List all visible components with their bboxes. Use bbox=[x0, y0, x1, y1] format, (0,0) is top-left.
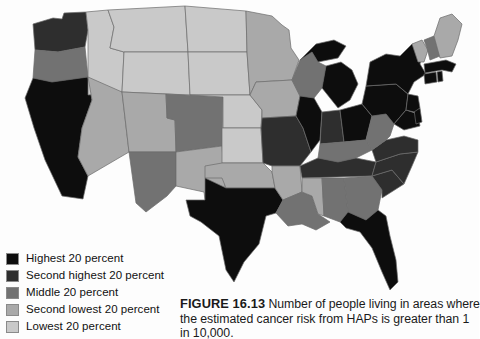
state-OR[interactable] bbox=[33, 47, 88, 82]
legend-item-second-lowest[interactable]: Second lowest 20 percent bbox=[6, 301, 206, 318]
legend-label-highest: Highest 20 percent bbox=[26, 252, 123, 265]
state-AL[interactable] bbox=[322, 178, 348, 222]
state-SD[interactable] bbox=[188, 52, 250, 95]
legend-item-second-highest[interactable]: Second highest 20 percent bbox=[6, 267, 206, 284]
state-NJ[interactable] bbox=[406, 94, 420, 112]
state-FL[interactable] bbox=[340, 210, 398, 290]
legend-swatch-second-highest bbox=[6, 270, 19, 282]
figure-caption: FIGURE 16.13 Number of people living in … bbox=[180, 297, 480, 339]
legend-label-middle: Middle 20 percent bbox=[26, 286, 118, 299]
state-KY[interactable] bbox=[318, 140, 372, 162]
legend-swatch-middle bbox=[6, 287, 19, 299]
legend-item-highest[interactable]: Highest 20 percent bbox=[6, 250, 206, 267]
legend-label-second-lowest: Second lowest 20 percent bbox=[26, 303, 160, 316]
state-KS[interactable] bbox=[222, 128, 263, 163]
state-WY[interactable] bbox=[122, 52, 190, 95]
legend-item-middle[interactable]: Middle 20 percent bbox=[6, 284, 206, 301]
map-legend: Highest 20 percent Second highest 20 per… bbox=[6, 250, 206, 335]
state-RI[interactable] bbox=[437, 71, 443, 82]
legend-label-lowest: Lowest 20 percent bbox=[26, 320, 121, 333]
state-CT[interactable] bbox=[424, 72, 437, 84]
legend-item-lowest[interactable]: Lowest 20 percent bbox=[6, 318, 206, 335]
legend-swatch-highest bbox=[6, 253, 19, 265]
state-WA[interactable] bbox=[33, 12, 88, 52]
figure-number: FIGURE 16.13 bbox=[180, 296, 265, 311]
state-MT[interactable] bbox=[108, 6, 188, 52]
state-ND[interactable] bbox=[185, 6, 247, 52]
state-ME[interactable] bbox=[434, 14, 462, 58]
state-AZ[interactable] bbox=[129, 152, 176, 212]
legend-swatch-second-lowest bbox=[6, 304, 19, 316]
legend-label-second-highest: Second highest 20 percent bbox=[26, 269, 164, 282]
legend-swatch-lowest bbox=[6, 321, 19, 333]
